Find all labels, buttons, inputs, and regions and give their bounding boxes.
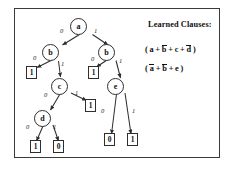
edge-label-d-1: 1 [53,124,56,131]
edge-label-a-0: 0 [60,28,63,35]
learned-clauses-title: Learned Clauses: [148,20,218,29]
edge-label-b-right-0: 0 [91,56,94,63]
edge-label-d-0: 0 [26,124,29,131]
learned-clause-2: ( a + b + e ) [145,64,183,74]
edge-label-e-1: 1 [132,108,135,115]
learned-clauses-panel: Learned Clauses: ( a + b + c + d ) ( a +… [148,20,218,29]
leaf-node[interactable]: 1 [30,140,41,153]
edge-label-b-left-1: 1 [61,61,64,68]
leaf-node[interactable]: 0 [53,140,64,153]
edge-label-e-0: 0 [101,108,104,115]
learned-clause-1: ( a + b + c + d ) [145,45,196,55]
decision-tree-figure: a b b c e d 1 1 1 0 1 0 1 0 1 0 1 0 1 0 … [0,0,236,169]
tree-node-b-left[interactable]: b [42,44,59,61]
edge-label-b-right-1: 1 [119,58,122,65]
edge-label-b-left-0: 0 [33,55,36,62]
leaf-node[interactable]: 1 [127,133,138,146]
edge-label-c-0: 0 [44,92,47,99]
edge-label-c-1: 1 [75,90,78,97]
tree-node-a[interactable]: a [70,18,87,35]
leaf-node[interactable]: 1 [26,66,37,79]
tree-node-d[interactable]: d [34,110,51,127]
leaf-node[interactable]: 0 [104,133,115,146]
tree-node-c[interactable]: c [51,78,68,95]
leaf-node[interactable]: 1 [85,99,96,112]
tree-node-e[interactable]: e [107,78,124,95]
leaf-node[interactable]: 1 [88,66,99,79]
tree-node-b-right[interactable]: b [98,44,115,61]
edge-label-a-1: 1 [94,28,97,35]
